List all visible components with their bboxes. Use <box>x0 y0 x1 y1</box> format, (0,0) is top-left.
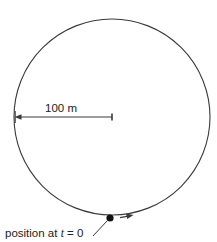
start-position-label-suffix: = 0 <box>64 227 84 239</box>
radius-label: 100 m <box>45 102 77 114</box>
start-position-label-prefix: position at <box>5 227 61 239</box>
start-position-label: position at t = 0 <box>5 227 83 239</box>
figure-background <box>0 0 217 242</box>
start-position-dot <box>106 214 113 221</box>
circular-track-figure: 100 m position at t = 0 <box>0 0 217 242</box>
